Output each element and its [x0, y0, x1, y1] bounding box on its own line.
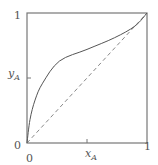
- x-tick-1: 1: [144, 140, 151, 153]
- y-tick-1: 1: [14, 9, 21, 22]
- y-axis-label: yA: [7, 67, 20, 82]
- x-axis-sub: A: [90, 153, 97, 162]
- x-axis-label: xA: [85, 147, 97, 162]
- y-tick-0: 0: [14, 139, 21, 152]
- y-axis-sub: A: [13, 73, 20, 82]
- diagonal-line: [27, 13, 147, 143]
- chart: 1 0 0 1 yA xA: [0, 0, 158, 165]
- x-tick-0: 0: [26, 152, 33, 165]
